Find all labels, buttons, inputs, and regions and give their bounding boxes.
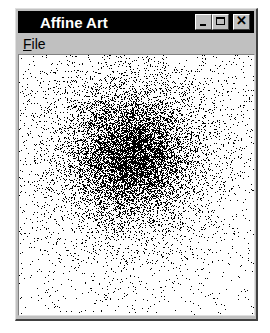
minimize-button[interactable]: [195, 14, 212, 30]
close-icon: ✕: [234, 13, 249, 29]
title-bar[interactable]: Affine Art ✕: [18, 11, 254, 33]
menu-file[interactable]: File: [23, 36, 46, 52]
window-title: Affine Art: [40, 14, 108, 31]
app-window: Affine Art ✕ File: [15, 8, 258, 321]
maximize-button[interactable]: [212, 14, 229, 30]
maximize-icon: [216, 17, 225, 25]
menu-bar: File: [18, 34, 254, 53]
close-button[interactable]: ✕: [233, 14, 250, 30]
minimize-icon: [200, 24, 206, 26]
drawing-canvas-area[interactable]: [18, 54, 255, 316]
affine-art-canvas[interactable]: [19, 55, 254, 315]
